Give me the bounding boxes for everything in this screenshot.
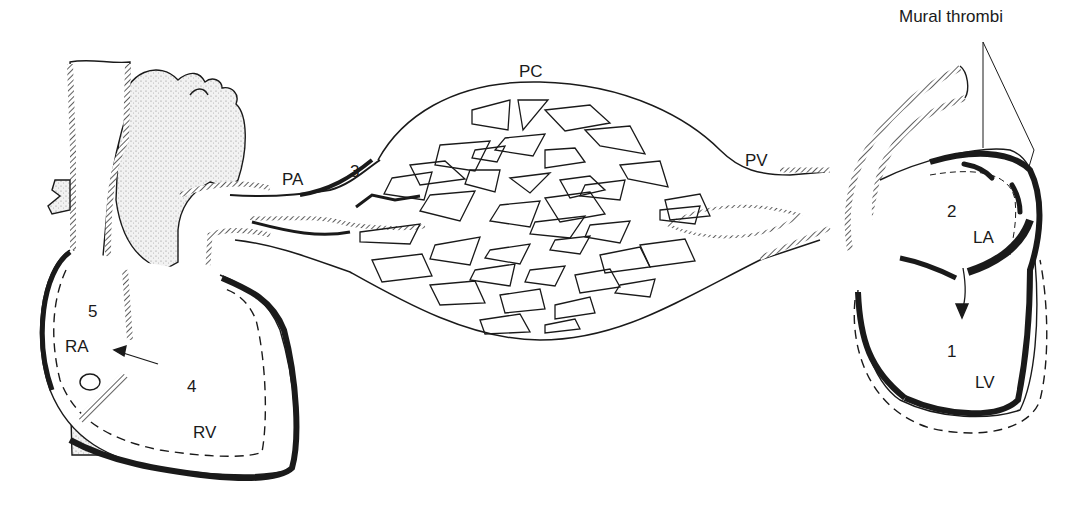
label-2: 2 — [947, 203, 956, 220]
label-5: 5 — [88, 303, 97, 320]
label-1: 1 — [947, 343, 956, 360]
pulmonary-capillary-network — [230, 82, 830, 340]
label-la: LA — [973, 229, 994, 246]
aortic-arch — [116, 70, 245, 272]
label-4: 4 — [187, 378, 196, 395]
diagram-artwork — [0, 0, 1087, 505]
left-heart — [848, 42, 1047, 433]
label-mural-thrombi: Mural thrombi — [899, 8, 1003, 25]
label-rv: RV — [193, 424, 216, 441]
label-pv: PV — [745, 152, 768, 169]
right-heart — [40, 61, 296, 478]
label-ra: RA — [65, 338, 89, 355]
label-pa: PA — [282, 171, 303, 188]
label-lv: LV — [975, 374, 995, 391]
capillary-cells — [360, 100, 710, 334]
pulmonary-circulation-diagram: Mural thrombi PC PA 3 PV 5 RA 4 RV 2 LA … — [0, 0, 1087, 505]
label-pc: PC — [519, 63, 543, 80]
label-3: 3 — [350, 163, 359, 180]
